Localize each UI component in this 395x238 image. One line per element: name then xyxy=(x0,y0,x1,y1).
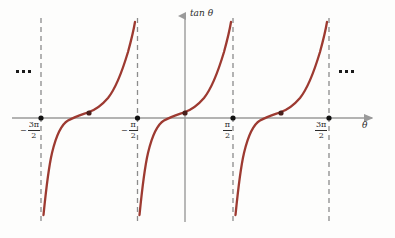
ellipsis-dot xyxy=(28,70,31,73)
ellipsis-dot xyxy=(16,70,19,73)
fraction: π 2 xyxy=(223,121,232,141)
fraction-numerator: π xyxy=(130,121,137,129)
minus-sign: − xyxy=(121,121,129,135)
ellipsis-dot xyxy=(351,70,354,73)
minus-sign: − xyxy=(20,121,28,135)
zero-point-pos-pi xyxy=(278,110,283,115)
fraction: 3π 2 xyxy=(315,121,327,141)
ellipsis-dot xyxy=(345,70,348,73)
tick-point-pos-pi-2 xyxy=(230,115,235,120)
ellipsis-dot xyxy=(339,70,342,73)
plot-canvas xyxy=(0,0,395,238)
fraction: 3π 2 xyxy=(28,121,40,141)
tick-point-neg-3pi-2 xyxy=(38,115,43,120)
continuation-ellipsis-left xyxy=(16,70,31,73)
tick-label-neg-pi-2: − π 2 xyxy=(121,121,138,141)
fraction-numerator: 3π xyxy=(315,121,327,129)
fraction: π 2 xyxy=(129,121,138,141)
tick-point-pos-3pi-2 xyxy=(326,115,331,120)
x-axis-label: θ xyxy=(362,120,367,130)
zero-point-neg-pi xyxy=(86,110,91,115)
tick-label-neg-3pi-2: − 3π 2 xyxy=(20,121,40,141)
tangent-function-graph: tan θ θ − 3π 2 − π 2 π 2 3π 2 xyxy=(0,0,395,238)
zero-points xyxy=(86,110,283,115)
fraction-denominator: 2 xyxy=(130,132,137,140)
fraction-denominator: 2 xyxy=(224,132,231,140)
y-axis-label: tan θ xyxy=(190,8,213,18)
fraction-denominator: 2 xyxy=(30,132,37,140)
tick-label-pos-pi-2: π 2 xyxy=(222,121,232,141)
fraction-numerator: π xyxy=(224,121,231,129)
ellipsis-dot xyxy=(22,70,25,73)
continuation-ellipsis-right xyxy=(339,70,354,73)
fraction-numerator: 3π xyxy=(28,121,40,129)
zero-point-origin xyxy=(182,110,187,115)
fraction-denominator: 2 xyxy=(318,132,325,140)
tick-label-pos-3pi-2: 3π 2 xyxy=(314,121,327,141)
